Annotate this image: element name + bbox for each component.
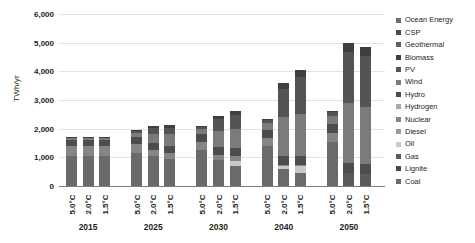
x-axis-group-label: 2040 <box>254 222 314 232</box>
bar-segment <box>295 70 306 77</box>
stacked-bar <box>196 126 207 186</box>
stacked-bar <box>213 116 224 186</box>
legend-item[interactable]: Hydro <box>396 88 475 100</box>
stacked-bar <box>99 137 110 186</box>
legend-item[interactable]: Wind <box>396 76 475 88</box>
bar-segment <box>278 169 289 186</box>
x-axis-tick-label: 2.0°C <box>149 188 158 222</box>
stacked-bar <box>230 111 241 186</box>
legend-label: CSP <box>405 29 420 37</box>
legend-swatch-icon <box>396 30 401 35</box>
legend-label: PV <box>405 66 415 74</box>
x-axis-tick-label: 5.0°C <box>263 188 272 222</box>
legend-swatch-icon <box>396 104 401 109</box>
stacked-bar <box>360 47 371 186</box>
legend-item[interactable]: CSP <box>396 26 475 38</box>
bar-segment <box>343 173 354 186</box>
x-axis-tick-label: 2.0°C <box>84 188 93 222</box>
x-axis-tick-label: 2.0°C <box>344 188 353 222</box>
stacked-bar <box>327 111 338 186</box>
bar-segment <box>295 77 306 113</box>
stacked-bar <box>164 125 175 186</box>
stacked-bar-chart: TWh/yr 01,0002,0003,0004,0005,0006,000 5… <box>0 0 475 243</box>
bar-segment <box>278 117 289 156</box>
legend-label: Gas <box>405 153 419 161</box>
bar-segment <box>164 128 175 135</box>
stacked-bar <box>83 137 94 186</box>
bar-segment <box>83 146 94 157</box>
legend-item[interactable]: Geothermal <box>396 39 475 51</box>
bar-segment <box>196 134 207 141</box>
bar-segment <box>327 142 338 186</box>
bar-segment <box>262 138 273 147</box>
bar-segment <box>295 173 306 186</box>
legend: Ocean EnergyCSPGeothermalBiomassPVWindHy… <box>396 14 475 187</box>
bar-series <box>59 14 385 186</box>
bar-segment <box>148 143 159 150</box>
y-axis-tick-label: 1,000 <box>14 153 54 162</box>
bar-segment <box>327 133 338 142</box>
stacked-bar <box>343 43 354 186</box>
legend-item[interactable]: Biomass <box>396 51 475 63</box>
bar-segment <box>131 137 142 144</box>
bar-segment <box>295 156 306 165</box>
x-axis-tick-label: 2.0°C <box>279 188 288 222</box>
bar-segment <box>230 166 241 186</box>
bar-segment <box>295 114 306 156</box>
bar-segment <box>360 56 371 107</box>
legend-item[interactable]: Lignite <box>396 163 475 175</box>
x-axis-scenario-labels: 5.0°C2.0°C1.5°C5.0°C2.0°C1.5°C5.0°C2.0°C… <box>59 188 385 222</box>
bar-segment <box>213 131 224 147</box>
legend-swatch-icon <box>396 129 401 134</box>
legend-item[interactable]: Oil <box>396 138 475 150</box>
y-axis-tick-label: 2,000 <box>14 124 54 133</box>
stacked-bar <box>148 126 159 186</box>
x-axis-group-label: 2030 <box>189 222 249 232</box>
bar-segment <box>230 129 241 148</box>
bar-segment <box>164 134 175 145</box>
x-axis-tick-label: 5.0°C <box>132 188 141 222</box>
legend-swatch-icon <box>396 42 401 47</box>
x-axis-tick-label: 5.0°C <box>328 188 337 222</box>
legend-item[interactable]: Hydrogen <box>396 101 475 113</box>
x-axis-group-labels: 20152025203020402050 <box>59 222 385 236</box>
x-axis-tick-label: 1.5°C <box>231 188 240 222</box>
legend-swatch-icon <box>396 179 401 184</box>
legend-label: Biomass <box>405 54 434 62</box>
bar-segment <box>230 115 241 129</box>
bar-segment <box>343 163 354 173</box>
bar-segment <box>262 146 273 186</box>
legend-swatch-icon <box>396 92 401 97</box>
legend-label: Hydro <box>405 91 425 99</box>
x-axis-group-label: 2025 <box>123 222 183 232</box>
legend-swatch-icon <box>396 18 401 23</box>
y-axis-tick-label: 5,000 <box>14 38 54 47</box>
legend-swatch-icon <box>396 117 401 122</box>
bar-segment <box>213 119 224 130</box>
x-axis-tick-label: 1.5°C <box>100 188 109 222</box>
legend-label: Lignite <box>405 165 427 173</box>
legend-item[interactable]: PV <box>396 64 475 76</box>
bar-segment <box>99 146 110 157</box>
stacked-bar <box>66 137 77 186</box>
legend-label: Nuclear <box>405 116 431 124</box>
legend-item[interactable]: Coal <box>396 175 475 187</box>
bar-segment <box>360 107 371 164</box>
legend-item[interactable]: Nuclear <box>396 113 475 125</box>
legend-item[interactable]: Gas <box>396 150 475 162</box>
legend-label: Ocean Energy <box>405 16 453 24</box>
stacked-bar <box>262 119 273 186</box>
bar-segment <box>196 142 207 151</box>
bar-segment <box>164 146 175 153</box>
x-axis-group-label: 2015 <box>58 222 118 232</box>
legend-item[interactable]: Ocean Energy <box>396 14 475 26</box>
bar-segment <box>262 130 273 138</box>
bar-segment <box>360 174 371 186</box>
bar-segment <box>230 148 241 156</box>
legend-swatch-icon <box>396 55 401 60</box>
legend-label: Geothermal <box>405 41 444 49</box>
y-axis-tick-label: 0 <box>14 182 54 191</box>
legend-label: Hydrogen <box>405 103 438 111</box>
legend-item[interactable]: Diesel <box>396 126 475 138</box>
legend-label: Wind <box>405 78 422 86</box>
